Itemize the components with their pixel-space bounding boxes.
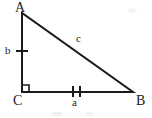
vertex-label-a: A [15,1,25,15]
triangle-outline [22,13,133,92]
vertex-label-b: B [136,94,145,108]
side-label-b: b [5,45,11,56]
vertex-label-c: C [13,94,22,108]
side-label-a: a [72,97,77,108]
side-label-c: c [76,33,81,44]
right-triangle-figure: A B C a b c [0,0,152,118]
